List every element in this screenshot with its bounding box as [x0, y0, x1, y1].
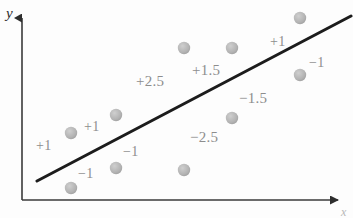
residual-label-positive-5: +1: [270, 35, 286, 49]
bar-cap-top: [110, 109, 122, 121]
bar-cap-top: [65, 127, 77, 139]
y-axis-label: y: [6, 6, 13, 21]
bar-cap-top: [226, 42, 238, 54]
bar-cap-top: [294, 12, 306, 24]
plot-canvas: [0, 0, 353, 218]
bar-cap-bottom: [65, 182, 77, 194]
residual-label-negative-1: −1: [78, 167, 94, 181]
residual-label-positive-3: +2.5: [136, 74, 164, 89]
residual-plot-figure: y x +1 −1 +1 −1 +2.5 −2.5 +1.5 −1.5 +1 −…: [0, 0, 353, 218]
residual-label-positive-1: +1: [36, 139, 52, 153]
residual-label-negative-4: −1.5: [239, 91, 267, 106]
x-axis-label: x: [341, 206, 346, 218]
residual-label-negative-5: −1: [309, 56, 325, 70]
regression-line: [37, 16, 351, 181]
bar-cap-bottom: [226, 112, 238, 124]
bar-cap-bottom: [110, 162, 122, 174]
residual-label-positive-4: +1.5: [192, 63, 220, 78]
residual-label-negative-2: −1: [123, 145, 139, 159]
bar-cap-top: [178, 42, 190, 54]
residual-label-positive-2: +1: [84, 120, 100, 134]
residual-label-negative-3: −2.5: [190, 130, 218, 145]
bar-cap-bottom: [178, 164, 190, 176]
residual-bar: [226, 42, 238, 124]
bar-cap-bottom: [294, 69, 306, 81]
residual-bar: [178, 42, 190, 176]
